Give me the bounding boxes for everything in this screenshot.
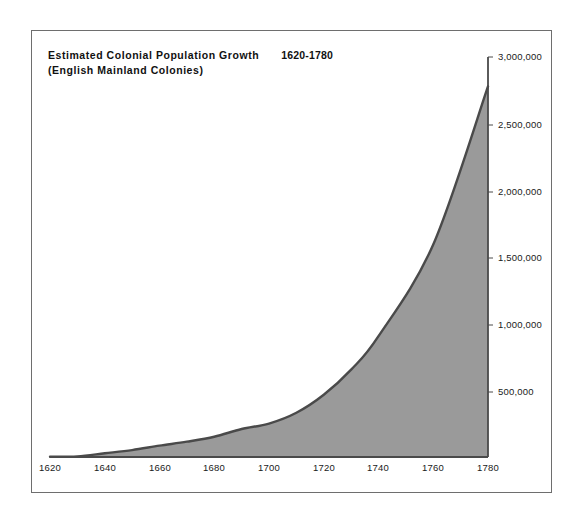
x-axis-tick-label: 1740: [367, 462, 389, 473]
y-axis-tick-label: 1,500,000: [498, 252, 542, 263]
population-area-fill: [50, 86, 488, 457]
x-axis-tick-label: 1660: [149, 462, 171, 473]
x-axis-tick-label: 1700: [258, 462, 280, 473]
y-axis-tick-label: 1,000,000: [498, 319, 542, 330]
area-series-group: [50, 57, 488, 457]
chart-page: Estimated Colonial Population Growth1620…: [0, 0, 583, 523]
x-axis-tick-label: 1760: [422, 462, 444, 473]
x-axis-tick-label: 1680: [203, 462, 225, 473]
x-axis-tick-label: 1720: [313, 462, 335, 473]
population-growth-area-chart: [0, 0, 583, 523]
y-axis-tick-label: 500,000: [498, 386, 534, 397]
y-axis-tick-label: 3,000,000: [498, 51, 542, 62]
y-axis-tick-label: 2,500,000: [498, 119, 542, 130]
x-axis-tick-label: 1620: [39, 462, 61, 473]
x-axis-tick-label: 1640: [94, 462, 116, 473]
y-axis-tick-label: 2,000,000: [498, 186, 542, 197]
x-axis-tick-label: 1780: [477, 462, 499, 473]
